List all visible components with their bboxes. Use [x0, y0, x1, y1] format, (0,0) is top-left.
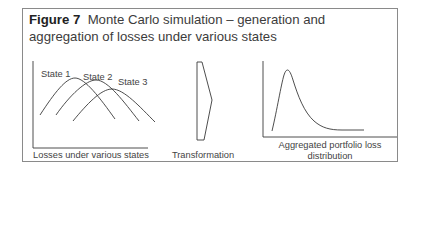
losses-caption: Losses under various states — [30, 150, 152, 161]
aggregated-axes — [263, 61, 397, 137]
aggregated-caption-line1: Aggregated portfolio loss — [268, 140, 392, 151]
aggregated-caption-line2: distribution — [268, 151, 392, 162]
state-1-label: State 1 — [41, 69, 70, 80]
aggregated-curve — [272, 70, 364, 131]
state-1-curve — [40, 78, 115, 119]
state-2-label: State 2 — [83, 72, 112, 83]
aggregated-caption: Aggregated portfolio loss distribution — [268, 140, 392, 162]
state-3-label: State 3 — [118, 77, 147, 88]
transformation-caption: Transformation — [168, 150, 238, 161]
transformation-shape — [197, 62, 212, 140]
